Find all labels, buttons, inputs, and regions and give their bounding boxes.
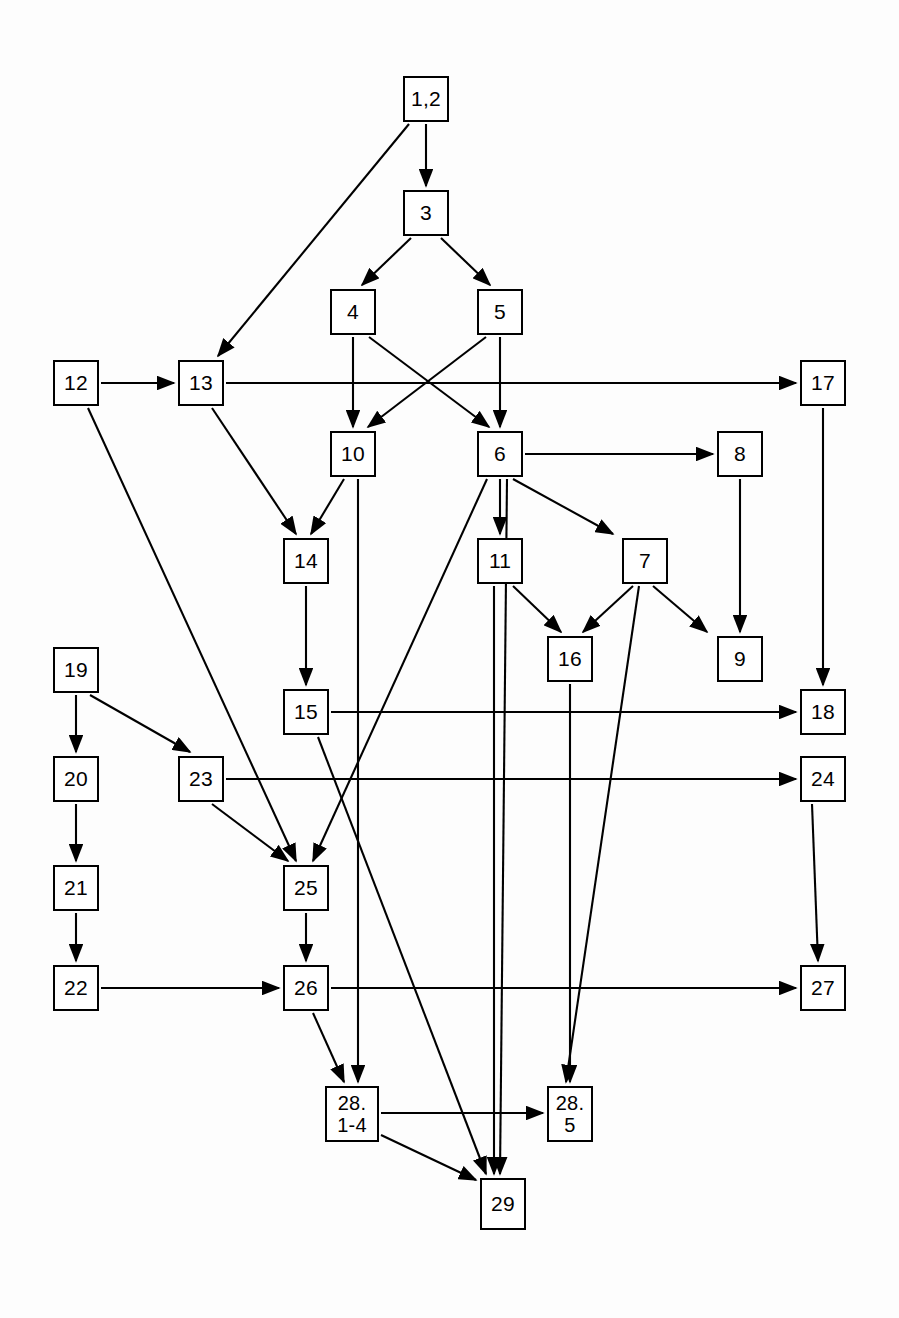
node-n22[interactable]: 22 <box>53 965 99 1011</box>
edge-n1_2-to-n13 <box>218 124 409 356</box>
node-n19[interactable]: 19 <box>53 647 99 693</box>
edge-n19-to-n23 <box>90 695 190 752</box>
edge-n11-to-n16 <box>513 586 561 632</box>
edge-n26-to-n28_14 <box>313 1013 344 1082</box>
node-n28_5[interactable]: 28. 5 <box>547 1086 593 1142</box>
node-n27[interactable]: 27 <box>800 965 846 1011</box>
node-n28_14[interactable]: 28. 1-4 <box>325 1086 379 1142</box>
edges-group <box>76 124 823 1180</box>
node-n16[interactable]: 16 <box>547 636 593 682</box>
edge-n23-to-n25 <box>212 804 288 861</box>
node-n18[interactable]: 18 <box>800 689 846 735</box>
node-n23[interactable]: 23 <box>178 756 224 802</box>
edge-n3-to-n4 <box>362 238 411 285</box>
edge-n24-to-n27 <box>812 804 818 961</box>
node-n9[interactable]: 9 <box>717 636 763 682</box>
edge-n6-to-n7 <box>513 479 613 534</box>
node-n1_2[interactable]: 1,2 <box>403 76 449 122</box>
node-n20[interactable]: 20 <box>53 756 99 802</box>
node-n8[interactable]: 8 <box>717 431 763 477</box>
edge-n7-to-n16 <box>583 586 633 632</box>
edge-n28_14-to-n29 <box>381 1135 476 1180</box>
node-n6[interactable]: 6 <box>477 431 523 477</box>
node-n5[interactable]: 5 <box>477 289 523 335</box>
node-n24[interactable]: 24 <box>800 756 846 802</box>
edge-n6-to-n25 <box>313 479 487 861</box>
edge-n4-to-n6 <box>369 337 489 427</box>
node-n17[interactable]: 17 <box>800 360 846 406</box>
node-n13[interactable]: 13 <box>178 360 224 406</box>
edge-layer <box>0 0 899 1318</box>
node-n4[interactable]: 4 <box>330 289 376 335</box>
node-n11[interactable]: 11 <box>477 538 523 584</box>
edge-n3-to-n5 <box>441 238 490 285</box>
edge-n13-to-n14 <box>212 408 296 534</box>
node-n12[interactable]: 12 <box>53 360 99 406</box>
node-n29[interactable]: 29 <box>480 1178 526 1230</box>
node-n21[interactable]: 21 <box>53 865 99 911</box>
edge-n10-to-n14 <box>311 479 344 534</box>
node-n15[interactable]: 15 <box>283 689 329 735</box>
node-n25[interactable]: 25 <box>283 865 329 911</box>
node-n14[interactable]: 14 <box>283 538 329 584</box>
edge-n7-to-n9 <box>653 586 707 632</box>
edge-n5-to-n10 <box>368 337 486 427</box>
node-n3[interactable]: 3 <box>403 190 449 236</box>
flowchart-canvas: 1,23451213171068141171691915182023242125… <box>0 0 899 1318</box>
node-n10[interactable]: 10 <box>330 431 376 477</box>
node-n7[interactable]: 7 <box>622 538 668 584</box>
node-n26[interactable]: 26 <box>283 965 329 1011</box>
